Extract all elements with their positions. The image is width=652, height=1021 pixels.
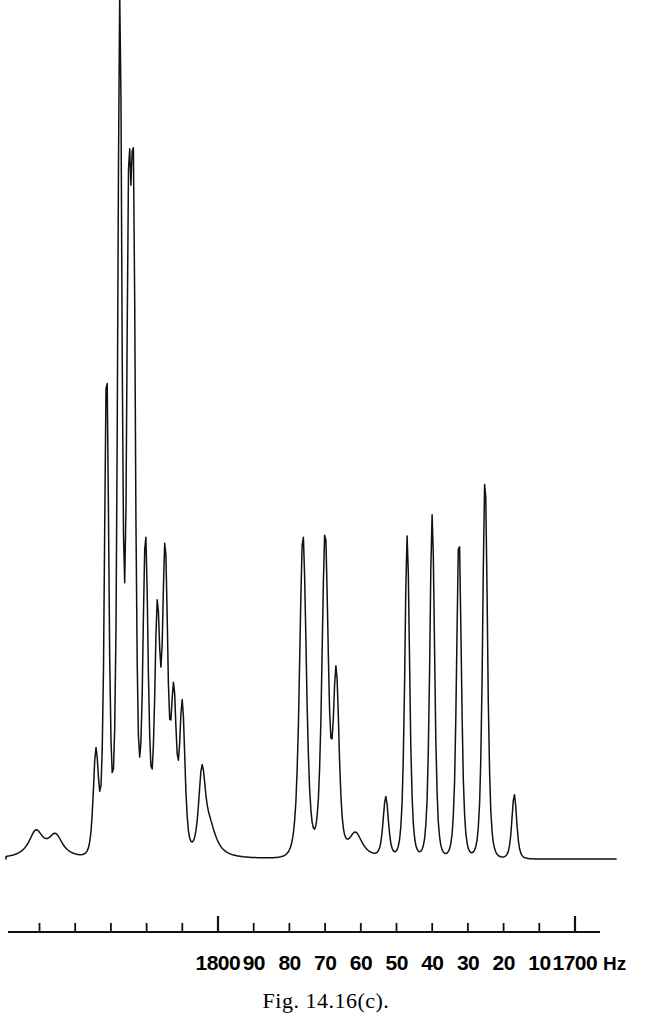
axis-tick-label: 80	[278, 952, 300, 973]
axis-tick-label: 70	[314, 952, 336, 973]
axis-tick-label: 90	[243, 952, 265, 973]
frequency-axis	[8, 916, 600, 932]
nmr-spectrum-figure: 18009080706050403020101700Hz Fig. 14.16(…	[0, 0, 652, 1021]
axis-unit-label: Hz	[603, 954, 626, 973]
spectrum-plot	[0, 0, 652, 1021]
spectrum-trace	[6, 0, 616, 859]
spectrum-trace-path	[6, 0, 616, 859]
figure-caption: Fig. 14.16(c).	[0, 988, 652, 1014]
axis-tick-label: 1800	[196, 952, 241, 973]
axis-tick-label: 30	[457, 952, 479, 973]
axis-tick-label: 10	[528, 952, 550, 973]
axis-tick-label: 60	[350, 952, 372, 973]
axis-tick-label: 20	[493, 952, 515, 973]
axis-tick-label: 40	[421, 952, 443, 973]
axis-tick-label: 1700	[553, 952, 598, 973]
axis-tick-label: 50	[386, 952, 408, 973]
